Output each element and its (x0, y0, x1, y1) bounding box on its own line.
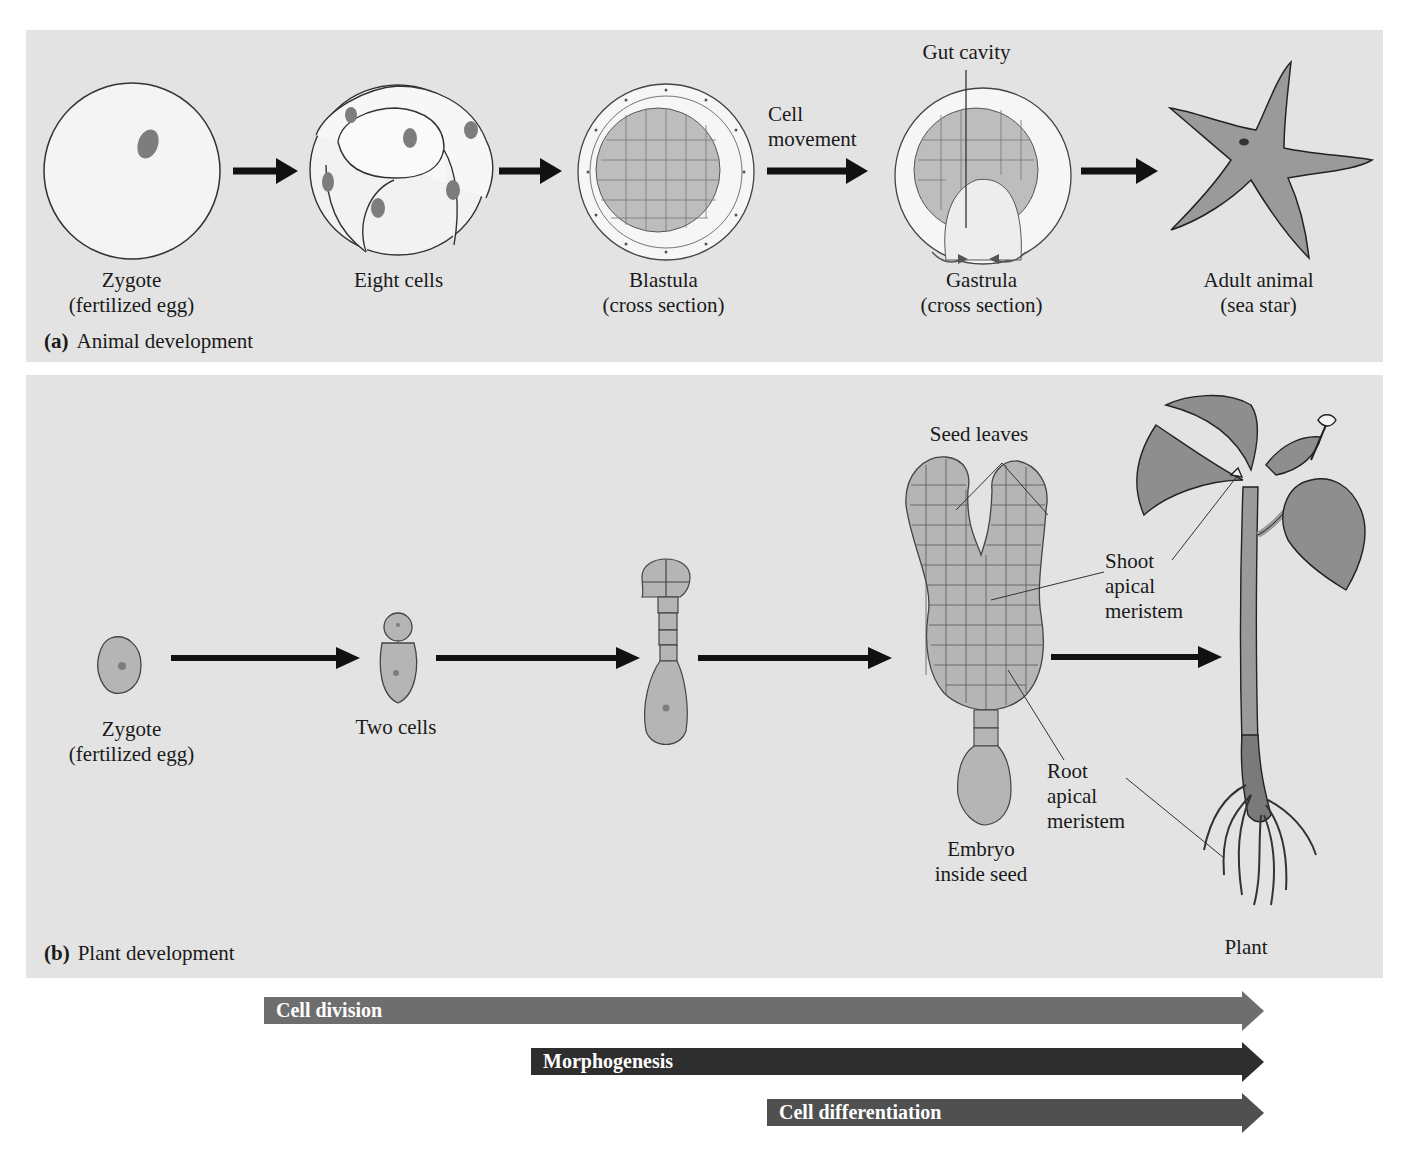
arrow-icon (171, 647, 360, 669)
plant-seedling-icon (1126, 396, 1365, 905)
stage-name: Blastula (586, 268, 741, 293)
stage-subtitle: (cross section) (586, 293, 741, 318)
stage-label-zygote: Zygote (fertilized egg) (54, 268, 209, 318)
plant-development-illustration (26, 375, 1383, 978)
stage-name: Gastrula (904, 268, 1059, 293)
gut-cavity-callout: Gut cavity (904, 40, 1029, 65)
stage-label-plant: Plant (1206, 935, 1286, 960)
panel-plant-development: Zygote (fertilized egg) Two cells Seed l… (26, 375, 1383, 978)
cell-movement-line-2: movement (768, 127, 857, 152)
stage-label-eight-cells: Eight cells (326, 268, 471, 293)
arrow-icon (1081, 158, 1158, 184)
panel-animal-development: Zygote (fertilized egg) Eight cells Blas… (26, 30, 1383, 362)
callout-line: apical (1105, 574, 1183, 599)
callout-line: meristem (1047, 809, 1125, 834)
process-bar-cell-differentiation: Cell differentiation (767, 1099, 1264, 1126)
panel-title: Plant development (78, 941, 235, 965)
two-cell-embryo-icon (380, 613, 416, 703)
stage-name: Eight cells (326, 268, 471, 293)
arrow-icon (436, 647, 640, 669)
stage-subtitle: (fertilized egg) (54, 293, 209, 318)
plant-root-leader-line (1126, 778, 1224, 858)
panel-title: Animal development (77, 329, 254, 353)
proembryo-icon (642, 559, 690, 745)
stage-subtitle: (sea star) (1181, 293, 1336, 318)
callout-line: Root (1047, 759, 1125, 784)
stage-label-plant-zygote: Zygote (fertilized egg) (54, 717, 209, 767)
eight-cell-embryo-icon (310, 85, 493, 255)
cell-movement-label: Cell movement (768, 102, 857, 152)
stage-name: Embryo (916, 837, 1046, 862)
process-bar-morphogenesis: Morphogenesis (531, 1048, 1264, 1075)
arrow-icon (698, 647, 892, 669)
stage-subtitle: (fertilized egg) (54, 742, 209, 767)
bar-label: Cell differentiation (767, 1099, 1242, 1126)
stage-label-two-cells: Two cells (331, 715, 461, 740)
panel-letter: (b) (44, 941, 70, 965)
stage-subtitle: (cross section) (904, 293, 1059, 318)
stage-label-gastrula: Gastrula (cross section) (904, 268, 1059, 318)
root-meristem-leader-line (1008, 670, 1064, 760)
bar-label: Cell division (264, 997, 1242, 1024)
arrow-icon (1051, 646, 1222, 668)
arrow-icon (767, 158, 868, 184)
panel-a-caption: (a)Animal development (44, 329, 253, 354)
stage-label-blastula: Blastula (cross section) (586, 268, 741, 318)
bar-label: Morphogenesis (531, 1048, 1242, 1075)
stage-name: Zygote (54, 717, 209, 742)
arrow-icon (233, 158, 298, 184)
stage-name: Adult animal (1181, 268, 1336, 293)
panel-letter: (a) (44, 329, 69, 353)
cell-movement-line-1: Cell (768, 102, 857, 127)
stage-label-adult-animal: Adult animal (sea star) (1181, 268, 1336, 318)
root-apical-meristem-callout: Root apical meristem (1047, 759, 1125, 834)
callout-line: apical (1047, 784, 1125, 809)
shoot-apical-meristem-callout: Shoot apical meristem (1105, 549, 1183, 624)
stage-name: Plant (1206, 935, 1286, 960)
sea-star-icon (1170, 62, 1372, 258)
callout-line: Shoot (1105, 549, 1183, 574)
arrowhead-icon (1242, 1042, 1264, 1082)
zygote-egg-icon (44, 83, 220, 259)
panel-b-caption: (b)Plant development (44, 941, 235, 966)
process-bar-cell-division: Cell division (264, 997, 1264, 1024)
stage-subtitle: inside seed (916, 862, 1046, 887)
callout-line: meristem (1105, 599, 1183, 624)
stage-label-embryo-inside-seed: Embryo inside seed (916, 837, 1046, 887)
stage-name: Zygote (54, 268, 209, 293)
arrowhead-icon (1242, 991, 1264, 1031)
arrowhead-icon (1242, 1093, 1264, 1133)
arrow-icon (499, 158, 562, 184)
seed-leaves-callout: Seed leaves (914, 422, 1044, 447)
plant-zygote-icon (98, 637, 141, 693)
blastula-icon (578, 84, 754, 260)
gastrula-icon (895, 70, 1071, 264)
stage-name: Two cells (331, 715, 461, 740)
